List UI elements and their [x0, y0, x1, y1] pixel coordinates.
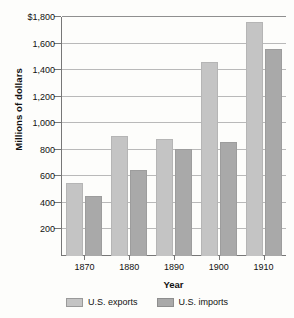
bar-group: 1900 — [196, 17, 241, 256]
x-axis-tick-label: 1910 — [254, 262, 274, 272]
y-axis-tick-label: 600 — [5, 171, 55, 181]
legend-swatch-icon — [66, 298, 83, 307]
y-axis-tick — [54, 228, 61, 229]
y-axis-tick-label: 1,000 — [5, 118, 55, 128]
y-axis-tick — [54, 122, 61, 123]
bar-groups: 18701880189019001910 — [62, 17, 286, 256]
x-axis-tick — [84, 256, 85, 260]
bar-group: 1890 — [152, 17, 197, 256]
y-axis-tick-label: 200 — [5, 224, 55, 234]
x-axis-tick — [129, 256, 130, 260]
bar-1900-exports[interactable] — [201, 62, 218, 256]
y-axis-tick — [54, 69, 61, 70]
bar-group: 1870 — [62, 17, 107, 256]
y-axis-tick — [54, 96, 61, 97]
bar-group: 1910 — [241, 17, 286, 256]
y-axis-tick-label: 1,600 — [5, 39, 55, 49]
x-axis-tick-label: 1900 — [209, 262, 229, 272]
y-axis-tick — [54, 43, 61, 44]
y-axis-tick-label: 1,400 — [5, 65, 55, 75]
bar-1910-exports[interactable] — [246, 22, 263, 256]
bar-group: 1880 — [107, 17, 152, 256]
bar-1870-imports[interactable] — [85, 196, 102, 256]
legend-item-imports[interactable]: U.S. imports — [157, 297, 229, 307]
y-axis-tick — [54, 16, 61, 17]
y-axis-tick-label: 400 — [5, 198, 55, 208]
bar-1910-imports[interactable] — [265, 49, 282, 256]
y-axis-tick-label: $1,800 — [5, 12, 55, 22]
x-axis-tick-label: 1890 — [164, 262, 184, 272]
bar-1880-exports[interactable] — [111, 136, 128, 256]
plot-area: $1,8001,6001,4001,2001,000800600400200 1… — [61, 17, 286, 256]
x-axis-title: Year — [61, 279, 286, 290]
y-axis-tick — [54, 175, 61, 176]
y-axis-tick — [54, 202, 61, 203]
bar-1870-exports[interactable] — [66, 183, 83, 256]
y-axis-title: Millions of dollars — [13, 45, 24, 175]
x-axis-tick — [219, 256, 220, 260]
bar-1890-imports[interactable] — [175, 149, 192, 256]
legend: U.S. exportsU.S. imports — [0, 297, 294, 307]
bar-1880-imports[interactable] — [130, 170, 147, 256]
bar-chart: Millions of dollars $1,8001,6001,4001,20… — [0, 0, 294, 318]
y-axis-tick-label: 1,200 — [5, 92, 55, 102]
bar-1890-exports[interactable] — [156, 139, 173, 257]
legend-item-exports[interactable]: U.S. exports — [66, 297, 138, 307]
x-axis-tick — [174, 256, 175, 260]
legend-label: U.S. exports — [88, 297, 138, 307]
legend-swatch-icon — [157, 298, 174, 307]
y-axis-tick-label: 800 — [5, 145, 55, 155]
legend-label: U.S. imports — [179, 297, 229, 307]
x-axis-tick-label: 1880 — [119, 262, 139, 272]
y-axis-tick — [54, 149, 61, 150]
x-axis-tick — [264, 256, 265, 260]
x-axis-tick-label: 1870 — [74, 262, 94, 272]
bar-1900-imports[interactable] — [220, 142, 237, 256]
